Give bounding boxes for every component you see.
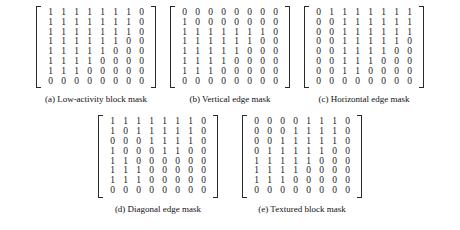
- matrix-row: 11111000: [44, 47, 148, 57]
- matrix-cell: 0: [204, 77, 217, 87]
- matrix-row: 00000000: [44, 77, 148, 87]
- matrix-row: 11110000: [178, 57, 282, 67]
- matrix-cell: 0: [364, 77, 377, 87]
- matrix-row: 11000000: [106, 157, 210, 167]
- matrix-cell: 0: [191, 77, 204, 87]
- matrix-row: 11111110: [44, 28, 148, 38]
- matrix-row: 11110000: [250, 166, 354, 176]
- matrix-cell: 0: [135, 77, 148, 87]
- matrix-row: 11111110: [44, 18, 148, 28]
- matrix-cell: 0: [269, 77, 282, 87]
- matrix-row: 01111100: [250, 147, 354, 157]
- matrix-row: 11100000: [106, 176, 210, 186]
- bracket-right-icon: [357, 115, 362, 197]
- matrix-cell: 0: [312, 77, 325, 87]
- matrix-row: 00111000: [312, 57, 416, 67]
- subfigure-b-caption: (b) Vertical edge mask: [189, 94, 270, 105]
- matrix-cell: 0: [315, 186, 328, 196]
- matrix-row: 00000000: [178, 8, 282, 18]
- matrix-cell: 0: [256, 77, 269, 87]
- matrix-row: 11100000: [250, 176, 354, 186]
- matrix-cell: 0: [122, 77, 135, 87]
- subfigure-e-caption: (e) Textured block mask: [258, 204, 345, 215]
- matrix-d-cells: 1111111010111110000111101000110011000000…: [103, 115, 213, 197]
- subfigure-c-caption: (c) Horizontal edge mask: [318, 94, 409, 105]
- matrix-cell: 0: [145, 186, 158, 196]
- matrix-a-cells: 1111111011111110111111101111110011111000…: [41, 6, 151, 88]
- matrix-cell: 0: [250, 186, 263, 196]
- subfigure-d-caption: (d) Diagonal edge mask: [115, 204, 201, 215]
- matrix-row: 10001100: [106, 147, 210, 157]
- matrix-cell: 0: [57, 77, 70, 87]
- matrix-cell: 0: [109, 77, 122, 87]
- matrix-cell: 0: [289, 186, 302, 196]
- matrix-cell: 0: [83, 77, 96, 87]
- matrix-cell: 0: [178, 77, 191, 87]
- matrix-row: 10111110: [106, 127, 210, 137]
- matrix-row: 11111110: [106, 117, 210, 127]
- matrix-row: 10000000: [178, 18, 282, 28]
- matrix-cell: 0: [276, 186, 289, 196]
- bracket-right-icon: [151, 6, 156, 88]
- matrix-cell: 0: [338, 77, 351, 87]
- matrix-row: 00001110: [250, 117, 354, 127]
- figure-row-bottom: 1111111010111110000111101000110011000000…: [0, 115, 460, 214]
- matrix-row: 11100000: [106, 166, 210, 176]
- matrix-row: 00000000: [312, 77, 416, 87]
- matrix-row: 01111111: [312, 8, 416, 18]
- matrix-row: 11111100: [44, 37, 148, 47]
- matrix-cell: 0: [119, 186, 132, 196]
- bracket-right-icon: [285, 6, 290, 88]
- matrix-cell: 0: [158, 186, 171, 196]
- matrix-cell: 0: [377, 77, 390, 87]
- matrix-cell: 0: [44, 77, 57, 87]
- subfigure-e: 0000111000011110001111100111110011111000…: [242, 115, 362, 214]
- matrix-cell: 0: [341, 186, 354, 196]
- matrix-row: 00111111: [312, 28, 416, 38]
- matrix-cell: 0: [403, 77, 416, 87]
- matrix-row: 00111110: [312, 37, 416, 47]
- subfigure-a: 1111111011111110111111101111110011111000…: [36, 6, 156, 105]
- subfigure-d: 1111111010111110000111101000110011000000…: [98, 115, 218, 214]
- bracket-right-icon: [419, 6, 424, 88]
- matrix-row: 00011110: [250, 127, 354, 137]
- matrix-row: 11111100: [178, 37, 282, 47]
- mask-matrix-figure: 1111111011111110111111101111110011111000…: [0, 0, 460, 230]
- bracket-left-icon: [242, 115, 247, 197]
- matrix-row: 11100000: [44, 67, 148, 77]
- matrix-cell: 0: [302, 186, 315, 196]
- matrix-row: 11111110: [178, 28, 282, 38]
- matrix-row: 00110000: [312, 67, 416, 77]
- matrix-cell: 0: [184, 186, 197, 196]
- matrix-cell: 0: [70, 77, 83, 87]
- matrix-row: 11110000: [44, 57, 148, 67]
- matrix-cell: 0: [325, 77, 338, 87]
- bracket-left-icon: [36, 6, 41, 88]
- matrix-c: 0111111100111111001111110011111000111100…: [304, 6, 424, 88]
- matrix-cell: 0: [351, 77, 364, 87]
- matrix-cell: 0: [243, 77, 256, 87]
- bracket-right-icon: [213, 115, 218, 197]
- subfigure-b: 0000000010000000111111101111110011111000…: [170, 6, 290, 105]
- subfigure-c: 0111111100111111001111110011111000111100…: [304, 6, 424, 105]
- subfigure-a-caption: (a) Low-activity block mask: [45, 94, 147, 105]
- matrix-cell: 0: [106, 186, 119, 196]
- matrix-a: 1111111011111110111111101111110011111000…: [36, 6, 156, 88]
- matrix-row: 00111111: [312, 18, 416, 28]
- matrix-e-cells: 0000111000011110001111100111110011111000…: [247, 115, 357, 197]
- matrix-row: 11111000: [178, 47, 282, 57]
- matrix-e: 0000111000011110001111100111110011111000…: [242, 115, 362, 197]
- matrix-row: 00000000: [106, 186, 210, 196]
- matrix-cell: 0: [328, 186, 341, 196]
- bracket-left-icon: [98, 115, 103, 197]
- matrix-cell: 0: [132, 186, 145, 196]
- matrix-cell: 0: [217, 77, 230, 87]
- bracket-left-icon: [304, 6, 309, 88]
- matrix-cell: 0: [171, 186, 184, 196]
- matrix-row: 00011110: [106, 137, 210, 147]
- matrix-row: 00111110: [250, 137, 354, 147]
- bracket-left-icon: [170, 6, 175, 88]
- matrix-row: 00111100: [312, 47, 416, 57]
- matrix-c-cells: 0111111100111111001111110011111000111100…: [309, 6, 419, 88]
- matrix-cell: 0: [390, 77, 403, 87]
